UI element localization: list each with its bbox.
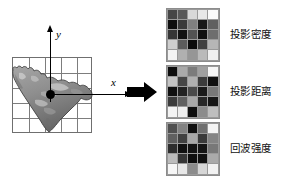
heatmap-cell	[198, 77, 208, 87]
heatmap-cell	[208, 107, 218, 117]
heatmap-cell	[178, 97, 188, 107]
heatmap-cell	[198, 144, 208, 154]
origin-dot-marker	[46, 90, 55, 99]
heatmap-cell	[168, 30, 178, 40]
heatmap-cell	[208, 77, 218, 87]
heatmap-cell	[188, 30, 198, 40]
heatmap-cell	[208, 30, 218, 40]
heatmap-cell	[198, 164, 208, 174]
heatmap-cell	[168, 107, 178, 117]
heatmap-cell	[178, 10, 188, 20]
heatmap-grid	[166, 122, 220, 176]
heatmap-grid	[166, 65, 220, 119]
heatmap-cell	[198, 107, 208, 117]
heatmap-cell	[188, 144, 198, 154]
heatmap-cell	[178, 164, 188, 174]
heatmap-cell	[168, 87, 178, 97]
heatmap-cell	[208, 144, 218, 154]
heatmap-cell	[208, 10, 218, 20]
heatmap-cell	[208, 97, 218, 107]
heatmap-cell	[208, 164, 218, 174]
x-axis-label: x	[111, 76, 116, 88]
heatmap-cell	[208, 40, 218, 50]
heatmap-cell	[188, 97, 198, 107]
feature-maps-panel: 投影密度 投影距离 回波强度	[160, 0, 295, 184]
heatmap-cell	[188, 40, 198, 50]
flow-arrow-icon	[127, 80, 157, 104]
heatmap-cell	[198, 40, 208, 50]
heatmap-cell	[208, 87, 218, 97]
heatmap-cell	[208, 67, 218, 77]
feature-map-label-projection-density: 投影密度	[230, 26, 272, 41]
heatmap-cell	[188, 50, 198, 60]
heatmap-cell	[178, 134, 188, 144]
heatmap-cell	[178, 40, 188, 50]
heatmap-cell	[178, 144, 188, 154]
heatmap-cell	[208, 154, 218, 164]
heatmap-cell	[198, 134, 208, 144]
heatmap-cell	[188, 107, 198, 117]
y-axis-arrow-icon	[47, 25, 53, 32]
feature-map-projection-density	[166, 8, 220, 62]
heatmap-cell	[168, 144, 178, 154]
heatmap-cell	[178, 67, 188, 77]
heatmap-grid	[166, 8, 220, 62]
heatmap-cell	[188, 164, 198, 174]
heatmap-cell	[178, 107, 188, 117]
heatmap-cell	[198, 97, 208, 107]
heatmap-cell	[168, 77, 178, 87]
feature-map-projection-distance	[166, 65, 220, 119]
heatmap-cell	[208, 50, 218, 60]
heatmap-cell	[188, 154, 198, 164]
heatmap-cell	[198, 124, 208, 134]
heatmap-cell	[198, 154, 208, 164]
heatmap-cell	[168, 124, 178, 134]
heatmap-cell	[168, 10, 178, 20]
heatmap-cell	[198, 67, 208, 77]
heatmap-cell	[198, 30, 208, 40]
heatmap-cell	[198, 10, 208, 20]
heatmap-cell	[198, 87, 208, 97]
heatmap-cell	[178, 20, 188, 30]
heatmap-cell	[168, 50, 178, 60]
heatmap-cell	[168, 97, 178, 107]
feature-map-label-echo-intensity: 回波强度	[230, 140, 272, 155]
x-axis-line	[50, 94, 126, 95]
y-axis-label: y	[56, 28, 61, 40]
heatmap-cell	[198, 20, 208, 30]
heatmap-cell	[178, 77, 188, 87]
heatmap-cell	[178, 87, 188, 97]
heatmap-cell	[168, 40, 178, 50]
heatmap-cell	[188, 87, 198, 97]
feature-map-label-projection-distance: 投影距离	[230, 83, 272, 98]
heatmap-cell	[198, 50, 208, 60]
heatmap-cell	[188, 134, 198, 144]
heatmap-cell	[188, 20, 198, 30]
heatmap-cell	[188, 77, 198, 87]
heatmap-cell	[168, 154, 178, 164]
heatmap-cell	[208, 134, 218, 144]
heatmap-cell	[188, 10, 198, 20]
heatmap-cell	[168, 67, 178, 77]
heatmap-cell	[208, 20, 218, 30]
heatmap-cell	[178, 154, 188, 164]
heatmap-cell	[178, 50, 188, 60]
heatmap-cell	[168, 20, 178, 30]
feature-map-echo-intensity	[166, 122, 220, 176]
heatmap-cell	[188, 67, 198, 77]
heatmap-cell	[188, 124, 198, 134]
heatmap-cell	[168, 134, 178, 144]
heatmap-cell	[178, 30, 188, 40]
heatmap-cell	[168, 164, 178, 174]
heatmap-cell	[208, 124, 218, 134]
heatmap-cell	[178, 124, 188, 134]
